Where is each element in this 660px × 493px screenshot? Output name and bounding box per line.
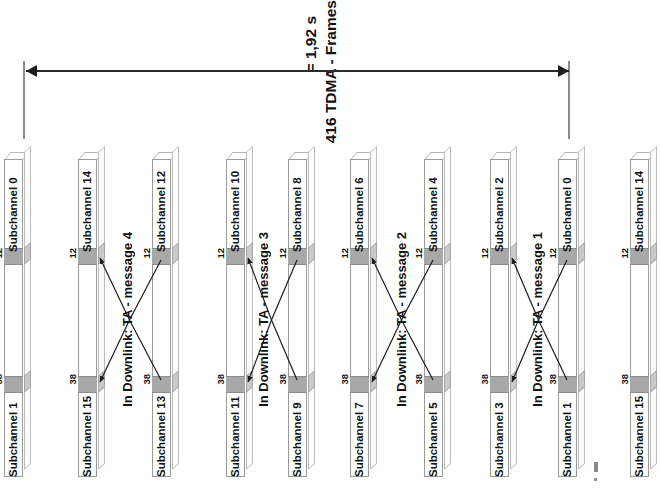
dimension-line xyxy=(26,70,569,72)
subchannel-label-bottom: Subchannel 7 xyxy=(350,395,369,477)
subchannel-label-top: Subchannel 2 xyxy=(490,160,509,252)
subchannel-label-bottom: Subchannel 11 xyxy=(226,395,245,477)
band-number-top: 12 xyxy=(67,248,79,259)
bar-side-face xyxy=(24,146,31,470)
subchannel-label-top: Subchannel 6 xyxy=(350,160,369,252)
subchannel-label-top: Subchannel 0 xyxy=(558,160,577,252)
band-number-top: 12 xyxy=(619,248,631,259)
band-segment-38 xyxy=(424,376,443,393)
bar-side-face xyxy=(510,146,517,470)
band-number-top: 12 xyxy=(479,248,491,259)
subchannel-bar: Subchannel 8Subchannel 91238 xyxy=(288,152,314,477)
band-number-bottom: 38 xyxy=(277,374,289,385)
band-number-bottom: 38 xyxy=(619,374,631,385)
bar-side-face xyxy=(172,146,179,470)
band-number-top: 12 xyxy=(0,248,5,259)
band-number-top: 12 xyxy=(215,248,227,259)
subchannel-label-top: Subchannel 14 xyxy=(630,160,649,252)
scan-artifact xyxy=(594,462,598,472)
subchannel-label-bottom: Subchannel 15 xyxy=(78,395,97,477)
bar-side-face xyxy=(98,146,105,470)
bar-side-face xyxy=(370,146,377,470)
band-segment-38 xyxy=(558,376,577,393)
subchannel-label-bottom: Subchannel 1 xyxy=(4,395,23,477)
band-number-top: 12 xyxy=(547,248,559,259)
band-number-top: 12 xyxy=(413,248,425,259)
band-segment-38 xyxy=(490,376,509,393)
subchannel-bar: Subchannel 2Subchannel 31238 xyxy=(490,152,516,477)
band-segment-38 xyxy=(630,376,649,393)
band-number-top: 12 xyxy=(277,248,289,259)
subchannel-label-top: Subchannel 10 xyxy=(226,160,245,252)
subchannel-label-top: Subchannel 0 xyxy=(4,160,23,252)
band-number-bottom: 38 xyxy=(141,374,153,385)
subchannel-bar: Subchannel 14Subchannel 151238 xyxy=(78,152,104,477)
arrow-head-left-icon xyxy=(26,65,37,77)
band-segment-38 xyxy=(78,376,97,393)
subchannel-label-top: Subchannel 4 xyxy=(424,160,443,252)
diagram-title: 416 TDMA - Frames = 1,92 s xyxy=(292,0,412,138)
subchannel-bar: Subchannel 0Subchannel 11238 xyxy=(558,152,584,477)
arrow-head-right-icon xyxy=(558,65,569,77)
band-segment-38 xyxy=(226,376,245,393)
band-number-bottom: 38 xyxy=(413,374,425,385)
bar-side-face xyxy=(444,146,451,470)
band-number-top: 12 xyxy=(339,248,351,259)
subchannel-bar: Subchannel 12Subchannel 131238 xyxy=(152,152,178,477)
subchannel-label-bottom: Subchannel 13 xyxy=(152,395,171,477)
band-number-top: 12 xyxy=(141,248,153,259)
subchannel-label-bottom: Subchannel 3 xyxy=(490,395,509,477)
bar-side-face xyxy=(246,146,253,470)
bar-side-face xyxy=(308,146,315,470)
subchannel-label-bottom: Subchannel 1 xyxy=(558,395,577,477)
band-segment-38 xyxy=(4,376,23,393)
band-number-bottom: 38 xyxy=(215,374,227,385)
subchannel-label-top: Subchannel 14 xyxy=(78,160,97,252)
band-number-bottom: 38 xyxy=(67,374,79,385)
ta-message-label: In Downlink: TA - message 4 xyxy=(120,232,135,407)
subchannel-bar: Subchannel 6Subchannel 71238 xyxy=(350,152,376,477)
band-number-bottom: 38 xyxy=(339,374,351,385)
bar-side-face xyxy=(578,146,585,470)
ta-message-label: In Downlink: TA - message 2 xyxy=(394,232,409,407)
band-segment-38 xyxy=(152,376,171,393)
scan-artifact-dot xyxy=(594,478,597,481)
band-segment-38 xyxy=(350,376,369,393)
subchannel-bar: Subchannel 4Subchannel 51238 xyxy=(424,152,450,477)
subchannel-label-bottom: Subchannel 9 xyxy=(288,395,307,477)
title-line-2: = 1,92 s xyxy=(302,16,320,72)
subchannel-bar: Subchannel 0Subchannel 11238 xyxy=(4,152,30,477)
ta-message-label: In Downlink: TA - message 1 xyxy=(530,232,545,407)
dimension-tick-left xyxy=(23,61,25,139)
band-number-bottom: 38 xyxy=(547,374,559,385)
subchannel-bar: Subchannel 14Subchannel 151238 xyxy=(630,152,656,477)
ta-message-label: In Downlink: TA - message 3 xyxy=(256,232,271,407)
subchannel-bar: Subchannel 10Subchannel 111238 xyxy=(226,152,252,477)
band-segment-38 xyxy=(288,376,307,393)
band-number-bottom: 38 xyxy=(0,374,5,385)
subchannel-label-bottom: Subchannel 15 xyxy=(630,395,649,477)
subchannel-label-bottom: Subchannel 5 xyxy=(424,395,443,477)
subchannel-label-top: Subchannel 8 xyxy=(288,160,307,252)
subchannel-label-top: Subchannel 12 xyxy=(152,160,171,252)
bar-side-face xyxy=(650,146,657,470)
band-number-bottom: 38 xyxy=(479,374,491,385)
